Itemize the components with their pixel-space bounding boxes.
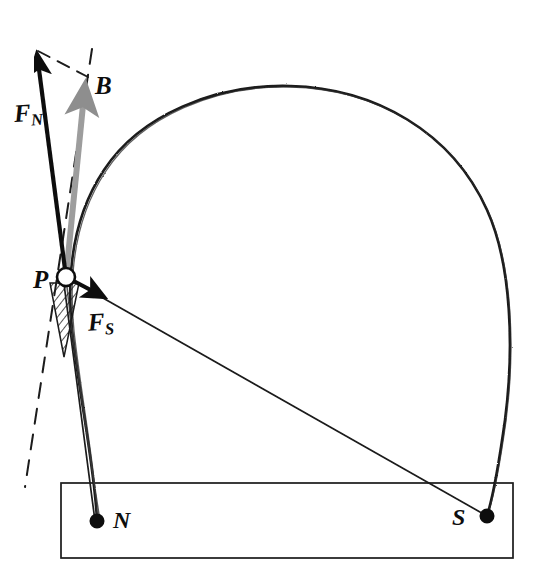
label-field-b: B	[95, 73, 112, 98]
pole-north-marker	[91, 515, 104, 528]
vector-force-north	[37, 54, 66, 277]
line-p-to-south-pole	[66, 277, 487, 516]
diagram-canvas	[0, 0, 552, 582]
label-pole-north: N	[113, 508, 130, 532]
field-line-path	[70, 86, 510, 521]
resultant-construction-line	[38, 51, 88, 77]
label-point-p-base: P	[33, 266, 48, 293]
pole-south-dot	[481, 510, 494, 523]
pole-north-dot	[91, 515, 104, 528]
label-force-north: FN	[13, 99, 43, 130]
label-point-p: P	[33, 267, 48, 292]
label-force-north-base: F	[13, 99, 32, 127]
field-line-path-shadow	[72, 87, 511, 521]
label-pole-south-base: S	[452, 504, 465, 530]
magnetic-field-diagram: FN B P FS N S	[0, 0, 552, 582]
label-force-north-sub: N	[30, 110, 43, 130]
label-field-b-base: B	[95, 72, 112, 99]
field-line	[70, 86, 511, 521]
label-force-south-base: F	[87, 308, 105, 336]
point-p-marker	[57, 268, 75, 286]
label-pole-south: S	[452, 505, 465, 529]
resultant-dashed-line	[38, 51, 88, 77]
pole-south-marker	[481, 510, 494, 523]
vector-fn-shaft	[37, 54, 66, 277]
p-to-s-line	[66, 277, 487, 516]
label-force-south-sub: S	[104, 319, 114, 338]
label-pole-north-base: N	[113, 507, 130, 533]
label-force-south: FS	[87, 308, 114, 338]
point-p-circle	[57, 268, 75, 286]
